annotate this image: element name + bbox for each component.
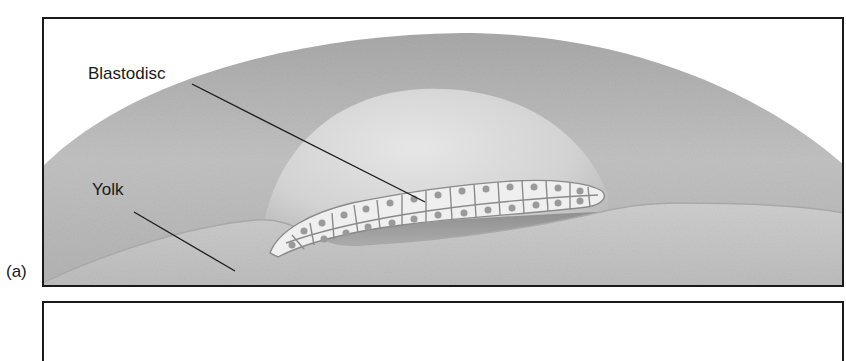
callout-blastodisc: Blastodisc [88, 64, 165, 84]
blastodisc-yolk-diagram [42, 17, 844, 286]
panel-a-illustration [42, 17, 844, 286]
callout-yolk: Yolk [92, 180, 124, 200]
panel-label-a: (a) [6, 262, 27, 282]
panel-b-frame [42, 301, 844, 361]
